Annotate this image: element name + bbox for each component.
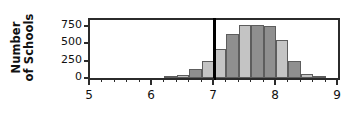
x-axis-major-tick xyxy=(336,78,338,85)
histogram-bar xyxy=(226,34,238,78)
y-axis-tick-label: 500 xyxy=(46,36,82,47)
x-axis-minor-tick xyxy=(250,78,251,82)
y-axis-title-line2: of Schools xyxy=(23,14,36,82)
x-axis-major-tick xyxy=(274,78,276,85)
y-axis-title: Number of Schools xyxy=(0,0,46,95)
plot-area xyxy=(88,18,340,80)
x-axis-minor-tick xyxy=(163,78,164,82)
x-axis-minor-tick xyxy=(312,78,313,82)
histogram-bar xyxy=(276,40,288,78)
histogram-bar xyxy=(288,61,300,78)
y-axis-tick-label: 250 xyxy=(46,54,82,65)
x-axis-tick-label: 8 xyxy=(271,88,279,102)
x-axis-minor-tick xyxy=(263,78,264,82)
y-axis-tick-label: 750 xyxy=(46,19,82,30)
x-axis-tick-label: 9 xyxy=(333,88,341,102)
x-axis-major-tick xyxy=(88,78,90,85)
x-axis-minor-tick xyxy=(287,78,288,82)
x-axis-tick-label: 5 xyxy=(85,88,93,102)
histogram-figure: Number of Schools 0250500750 56789 xyxy=(0,0,363,119)
x-axis-minor-tick xyxy=(176,78,177,82)
y-axis-tick-labels: 0250500750 xyxy=(46,0,82,95)
x-axis-minor-tick xyxy=(114,78,115,82)
x-axis-major-tick xyxy=(150,78,152,85)
x-axis-minor-tick xyxy=(188,78,189,82)
x-axis-tick-labels: 56789 xyxy=(88,88,338,106)
x-axis-ticks xyxy=(88,78,338,86)
y-axis-tick xyxy=(84,42,90,44)
histogram-bar xyxy=(264,26,276,78)
x-axis-minor-tick xyxy=(126,78,127,82)
reference-line xyxy=(213,18,216,80)
x-axis-minor-tick xyxy=(139,78,140,82)
x-axis-minor-tick xyxy=(201,78,202,82)
x-axis-tick-label: 6 xyxy=(147,88,155,102)
y-axis-tick-label: 0 xyxy=(46,71,82,82)
x-axis-minor-tick xyxy=(238,78,239,82)
x-axis-tick-label: 7 xyxy=(209,88,217,102)
x-axis-minor-tick xyxy=(300,78,301,82)
histogram-bar xyxy=(239,25,251,78)
x-axis-minor-tick xyxy=(225,78,226,82)
x-axis-major-tick xyxy=(212,78,214,85)
y-axis-tick xyxy=(84,25,90,27)
histogram-bar xyxy=(189,69,201,78)
x-axis-minor-tick xyxy=(101,78,102,82)
histogram-bar xyxy=(251,25,263,78)
y-axis-tick xyxy=(84,60,90,62)
x-axis-minor-tick xyxy=(325,78,326,82)
y-axis-title-line1: Number xyxy=(11,14,24,82)
